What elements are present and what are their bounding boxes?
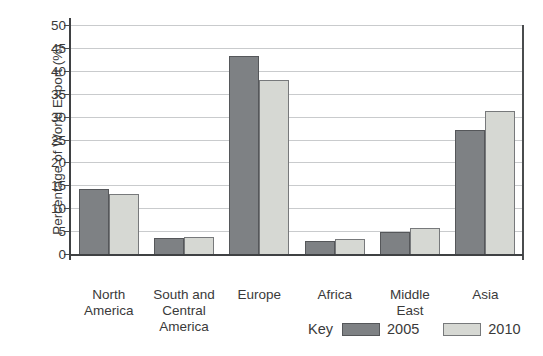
bar-group-2 [222, 25, 297, 254]
bar-2010-2 [259, 80, 289, 254]
x-category-label-3: Africa [297, 287, 372, 303]
bar-2010-1 [184, 237, 214, 254]
y-tick-label-35: 35 [26, 88, 66, 101]
y-tick-label-5: 5 [26, 225, 66, 238]
bar-group-0 [71, 25, 146, 254]
x-category-label-line: East [372, 303, 447, 319]
y-axis-line [69, 18, 71, 260]
legend-swatch-2010 [443, 323, 481, 336]
y-tick-label-50: 50 [26, 19, 66, 32]
x-category-label-line: South and [146, 287, 221, 303]
x-category-label-line: Asia [448, 287, 523, 303]
plot-area: 05101520253035404550 NorthAmericaSouth a… [71, 25, 523, 254]
x-category-label-line: Middle [372, 287, 447, 303]
bar-group-4 [372, 25, 447, 254]
bar-2010-5 [485, 111, 515, 254]
y-tick-label-40: 40 [26, 65, 66, 78]
x-category-label-0: NorthAmerica [71, 287, 146, 319]
bar-group-5 [448, 25, 523, 254]
legend-swatch-2005 [342, 323, 380, 336]
legend: Key 20052010 [308, 321, 521, 337]
x-category-label-line: America [146, 319, 221, 335]
bar-2010-3 [335, 239, 365, 254]
y-tick-label-0: 0 [26, 248, 66, 261]
legend-item-2005: 2005 [342, 321, 419, 337]
x-category-label-line: Africa [297, 287, 372, 303]
bar-2005-5 [455, 130, 485, 254]
x-category-label-2: Europe [222, 287, 297, 303]
legend-item-2010: 2010 [443, 321, 520, 337]
bar-group-1 [146, 25, 221, 254]
bar-2005-4 [380, 232, 410, 254]
bar-2005-2 [229, 56, 259, 254]
bar-2010-4 [410, 228, 440, 254]
legend-label-2005: 2005 [387, 321, 419, 337]
y-tick-label-30: 30 [26, 111, 66, 124]
right-axis-line [522, 25, 524, 260]
x-category-label-line: America [71, 303, 146, 319]
bar-2005-1 [154, 238, 184, 254]
legend-label-2010: 2010 [488, 321, 520, 337]
bar-2010-0 [109, 194, 139, 254]
bar-chart: Percentage of World Export (%) 051015202… [0, 0, 543, 356]
x-axis-line [69, 254, 523, 256]
y-tick-label-10: 10 [26, 202, 66, 215]
y-tick-label-45: 45 [26, 42, 66, 55]
y-tick-label-15: 15 [26, 179, 66, 192]
x-category-label-4: MiddleEast [372, 287, 447, 319]
y-tick-label-20: 20 [26, 156, 66, 169]
x-category-label-line: North [71, 287, 146, 303]
x-category-label-line: Europe [222, 287, 297, 303]
bar-2005-3 [305, 241, 335, 254]
y-tick-label-25: 25 [26, 134, 66, 147]
bar-group-3 [297, 25, 372, 254]
x-category-label-5: Asia [448, 287, 523, 303]
legend-title: Key [308, 321, 333, 337]
x-category-label-line: Central [146, 303, 221, 319]
x-category-label-1: South andCentralAmerica [146, 287, 221, 335]
bar-2005-0 [79, 189, 109, 254]
